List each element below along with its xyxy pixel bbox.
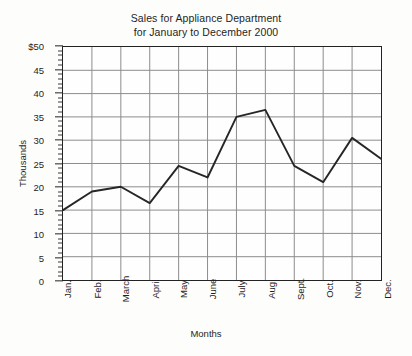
y-axis-tick-label: 5 [39, 252, 44, 263]
x-axis-tick-label-text: May [178, 280, 189, 298]
x-axis-tick-label: Jan. [55, 283, 69, 329]
x-axis-tick-label: Feb. [84, 283, 98, 329]
plot-area [62, 46, 382, 281]
y-axis-tick-label: 20 [33, 182, 44, 193]
y-axis-tick-labels: 051015202530354045$50 [0, 46, 58, 281]
x-axis-tick-label-text: March [120, 276, 131, 302]
y-axis-tick-label: 35 [33, 111, 44, 122]
y-axis-tick-label: 25 [33, 158, 44, 169]
x-axis-tick-label-text: Nov. [353, 280, 364, 299]
x-axis-tick-label: Aug. [259, 283, 273, 329]
x-axis-tick-label: June [200, 283, 214, 329]
y-axis-tick-label: 45 [33, 64, 44, 75]
data-series-line [63, 47, 381, 280]
y-axis-tick-label: 0 [39, 276, 44, 287]
chart-title: Sales for Appliance Department for Janua… [0, 12, 412, 39]
x-axis-tick-label-text: Aug. [266, 279, 277, 299]
x-axis-tick-label: July [230, 283, 244, 329]
x-axis-tick-label: March [113, 283, 127, 329]
chart-figure: Sales for Appliance Department for Janua… [0, 0, 412, 356]
x-axis-tick-label: May [171, 283, 185, 329]
x-axis-tick-label-text: July [237, 281, 248, 298]
series-sales-line [63, 110, 381, 210]
x-axis-tick-label-text: Dec. [382, 279, 393, 299]
x-axis-tick-label-text: June [207, 279, 218, 300]
x-axis-tick-label: Nov. [346, 283, 360, 329]
y-axis-tick-label: 30 [33, 135, 44, 146]
y-axis-tick-label: $50 [28, 41, 44, 52]
x-axis-tick-label-text: Oct. [324, 280, 335, 297]
x-axis-tick-label: Oct. [317, 283, 331, 329]
x-axis-tick-label-text: Jan. [62, 280, 73, 298]
y-axis-tick-label: 15 [33, 205, 44, 216]
x-axis-tick-label: April [142, 283, 156, 329]
x-axis-tick-label: Sept. [288, 283, 302, 329]
x-axis-tick-label-text: Feb. [91, 279, 102, 298]
x-axis-tick-label-text: April [149, 279, 160, 298]
x-axis-tick-labels: Jan.Feb.MarchAprilMayJuneJulyAug.Sept.Oc… [62, 283, 382, 329]
y-axis-tick-label: 10 [33, 229, 44, 240]
x-axis-title: Months [0, 328, 412, 339]
x-axis-tick-label: Dec. [375, 283, 389, 329]
y-axis-tick-label: 40 [33, 88, 44, 99]
x-axis-tick-label-text: Sept. [295, 278, 306, 300]
